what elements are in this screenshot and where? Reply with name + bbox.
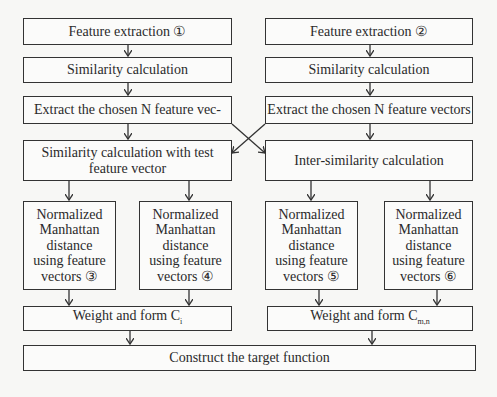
manhattan-3-line: vectors ③ bbox=[41, 269, 98, 285]
extract-vectors-right-box: Extract the chosen N feature vectors bbox=[265, 96, 473, 124]
target-function-label: Construct the target function bbox=[169, 350, 329, 366]
manhattan-6-line: vectors ⑥ bbox=[400, 269, 457, 285]
weight-cmn-label: Weight and form Cm,n bbox=[310, 308, 430, 330]
manhattan-4-line: Manhattan bbox=[156, 222, 216, 238]
manhattan-6-line: using feature bbox=[392, 253, 465, 269]
inter-similarity-label: Inter-similarity calculation bbox=[294, 153, 443, 169]
manhattan-5-line: distance bbox=[289, 238, 335, 254]
manhattan-5-line: Normalized bbox=[278, 207, 344, 223]
manhattan-5-line: using feature bbox=[275, 253, 348, 269]
weight-ci-label: Weight and form Ci bbox=[73, 308, 183, 330]
manhattan-3-box: Normalized Manhattan distance using feat… bbox=[23, 201, 116, 290]
manhattan-4-line: vectors ④ bbox=[157, 269, 214, 285]
manhattan-3-line: distance bbox=[47, 238, 93, 254]
manhattan-3-line: Normalized bbox=[36, 207, 102, 223]
similarity-calculation-left-label: Similarity calculation bbox=[67, 62, 188, 78]
feature-extraction-1-label: Feature extraction ① bbox=[69, 24, 187, 40]
feature-extraction-1-box: Feature extraction ① bbox=[23, 18, 232, 45]
similarity-calculation-left-box: Similarity calculation bbox=[23, 57, 232, 83]
manhattan-4-line: distance bbox=[163, 238, 209, 254]
manhattan-6-box: Normalized Manhattan distance using feat… bbox=[384, 201, 473, 290]
feature-extraction-2-box: Feature extraction ② bbox=[265, 18, 473, 45]
weight-ci-text: Weight and form C bbox=[73, 308, 180, 323]
manhattan-4-line: using feature bbox=[149, 253, 222, 269]
feature-extraction-2-label: Feature extraction ② bbox=[310, 24, 428, 40]
test-similarity-line2: feature vector bbox=[89, 161, 166, 177]
manhattan-3-line: Manhattan bbox=[40, 222, 100, 238]
manhattan-5-line: Manhattan bbox=[282, 222, 342, 238]
weight-cmn-subscript: m,n bbox=[418, 317, 430, 326]
manhattan-6-line: Normalized bbox=[395, 207, 461, 223]
test-similarity-box: Similarity calculation with test feature… bbox=[23, 140, 232, 181]
target-function-box: Construct the target function bbox=[23, 345, 476, 371]
weight-cmn-text: Weight and form C bbox=[310, 308, 417, 323]
manhattan-5-box: Normalized Manhattan distance using feat… bbox=[265, 201, 358, 290]
inter-similarity-box: Inter-similarity calculation bbox=[265, 140, 473, 181]
similarity-calculation-right-label: Similarity calculation bbox=[309, 62, 430, 78]
extract-vectors-left-label: Extract the chosen N feature vec- bbox=[34, 102, 221, 118]
manhattan-6-line: distance bbox=[406, 238, 452, 254]
extract-vectors-right-label: Extract the chosen N feature vectors bbox=[267, 102, 470, 118]
similarity-calculation-right-box: Similarity calculation bbox=[265, 57, 473, 83]
weight-cmn-box: Weight and form Cm,n bbox=[267, 306, 473, 331]
weight-ci-box: Weight and form Ci bbox=[23, 306, 232, 331]
extract-vectors-left-box: Extract the chosen N feature vec- bbox=[23, 96, 232, 124]
weight-ci-subscript: i bbox=[180, 317, 182, 326]
manhattan-4-line: Normalized bbox=[152, 207, 218, 223]
manhattan-6-line: Manhattan bbox=[399, 222, 459, 238]
test-similarity-line1: Similarity calculation with test bbox=[41, 145, 213, 161]
manhattan-3-line: using feature bbox=[33, 253, 106, 269]
manhattan-4-box: Normalized Manhattan distance using feat… bbox=[139, 201, 232, 290]
manhattan-5-line: vectors ⑤ bbox=[283, 269, 340, 285]
